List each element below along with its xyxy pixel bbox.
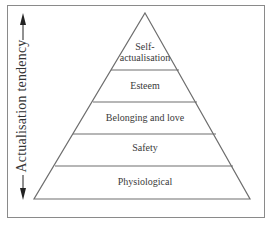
level-belonging-and-love: Belonging and love [75, 112, 215, 123]
axis-label: Actualisation tendency [14, 39, 30, 172]
level-physiological: Physiological [85, 176, 205, 187]
arrow-down-icon [20, 175, 26, 200]
level-self-actualisation: Self- actualisation [105, 41, 185, 63]
level-label-line1: Self- [105, 41, 185, 52]
level-esteem: Esteem [95, 80, 195, 91]
level-safety: Safety [95, 142, 195, 153]
arrow-up-icon [20, 13, 26, 40]
level-label-line2: actualisation [105, 52, 185, 63]
